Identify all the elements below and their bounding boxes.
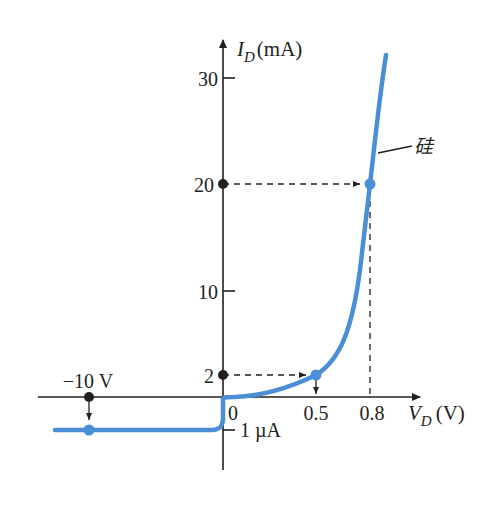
x-tick-0.5: 0.5 [304, 402, 329, 424]
curve-label-silicon: 硅 [414, 136, 435, 157]
dashed-guides [223, 184, 370, 397]
x-tick-0.8: 0.8 [360, 402, 385, 424]
x-tick-0: 0 [228, 402, 238, 424]
y-tick-10: 10 [198, 281, 218, 303]
axis-point-20mA [218, 179, 228, 189]
y-tick-2: 2 [204, 365, 214, 387]
axis-point-2mA [218, 370, 228, 380]
y-tick-30: 30 [198, 68, 218, 90]
curve-label-leader [378, 146, 412, 153]
axis-point-minus10V [84, 392, 94, 402]
x-axis-title: VD(V) [408, 401, 465, 429]
diode-characteristic-chart: 30 20 10 2 0 0.5 0.8 −10 V 1 µA ID(mA) V… [0, 0, 496, 508]
curve-point-0.5V [311, 370, 322, 381]
y-axis-title: ID(mA) [236, 37, 302, 65]
reverse-current-label: 1 µA [240, 419, 282, 442]
reverse-voltage-label: −10 V [63, 370, 114, 392]
curve-point-minus10V [84, 425, 95, 436]
y-tick-20: 20 [194, 174, 214, 196]
curve-point-0.8V [365, 179, 376, 190]
